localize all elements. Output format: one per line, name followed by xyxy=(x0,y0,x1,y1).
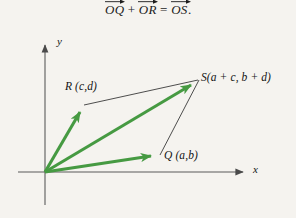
point-label-s: S(a + c, b + d) xyxy=(201,71,271,83)
y-axis-label: y xyxy=(57,35,62,47)
point-label-r: R (c,d) xyxy=(65,80,97,92)
vector-addition-figure: OQ+OR=OS. y x R (c,d) Q (a,b) S(a + c, b… xyxy=(0,0,296,218)
point-label-q: Q (a,b) xyxy=(164,149,198,161)
coordinate-plot xyxy=(0,0,296,218)
x-axis-label: x xyxy=(253,163,258,175)
